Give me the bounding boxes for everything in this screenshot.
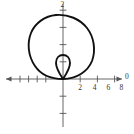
x-axis-end-label: 0 — [125, 72, 129, 81]
x-tick-label-8: 8 — [120, 83, 124, 92]
plot-canvas: 2 4 6 8 0 2 — [0, 0, 134, 134]
x-tick-label-2: 2 — [78, 83, 82, 92]
x-axis-left-arrow-icon — [6, 77, 12, 82]
limacon-outer-loop — [29, 15, 94, 79]
curve-group — [29, 15, 94, 79]
chart-figure: 2 4 6 8 0 2 — [0, 0, 134, 134]
x-tick-label-6: 6 — [107, 83, 111, 92]
x-tick-label-4: 4 — [93, 83, 97, 92]
y-axis-end-label: 2 — [61, 0, 65, 9]
x-axis-right-arrow-icon — [117, 77, 123, 82]
x-axis-tick-labels: 2 4 6 8 — [78, 83, 123, 92]
axes-group: 2 4 6 8 0 2 — [6, 0, 129, 127]
